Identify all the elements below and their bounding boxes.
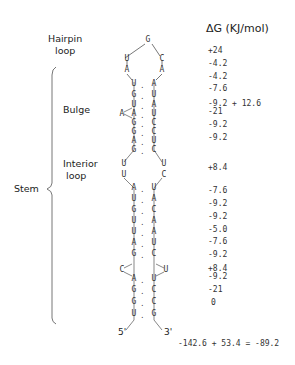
nucleotide: U [130,195,138,203]
nucleotide: C [150,146,158,154]
structure-lines [0,0,295,365]
nucleotide: A [150,101,158,109]
nucleotide: U [123,55,131,63]
nucleotide: A [150,80,158,88]
nucleotide: C [150,128,158,136]
stem-label: Stem [14,183,39,194]
dg-value: -9.2 [208,272,227,281]
nucleotide: G [130,128,138,136]
nucleotide: U [150,239,158,247]
dg-value: +24 [208,46,222,55]
nucleotide: G [130,206,138,214]
interior-label-2: loop [66,170,86,181]
hairpin-label-2: loop [55,45,75,56]
nucleotide: U [130,228,138,236]
nucleotide: U [150,137,158,145]
nucleotide: A [150,228,158,236]
nucleotide: U [150,184,158,192]
nucleotide: A [130,137,138,145]
nucleotide: U [150,91,158,99]
nucleotide: G [130,91,138,99]
dg-value: -9.2 [208,133,227,142]
dg-value: -4.2 [208,72,227,81]
nucleotide: U [150,275,158,283]
dg-value: -4.2 [208,59,227,68]
nucleotide: A [150,217,158,225]
dg-value: -7.6 [208,84,227,93]
nucleotide: A [150,195,158,203]
loop-nucleotide: U [120,171,128,179]
five-prime-end: 5' [118,327,126,338]
nucleotide: G [150,310,158,318]
loop-nucleotide: U [160,160,168,168]
nucleotide: A [130,275,138,283]
dg-value: 0 [211,298,216,307]
bulge-nucleotide: U [162,266,170,274]
nucleotide: C [150,250,158,258]
three-prime-end: 3' [164,327,172,338]
dg-value: -21 [208,285,222,294]
loop-nucleotide: U [120,160,128,168]
nucleotide: G [130,146,138,154]
dg-value: -21 [208,107,222,116]
dg-total: -142.6 + 53.4 = -89.2 [178,339,279,348]
dg-value: -5.0 [208,225,227,234]
loop-nucleotide: C [160,171,168,179]
nucleotide: C [158,55,166,63]
dg-value: -9.2 [208,212,227,221]
dg-value: -7.6 [208,237,227,246]
nucleotide: G [130,286,138,294]
nucleotide: A [130,110,138,118]
nucleotide: G [144,36,152,44]
hairpin-label: Hairpin [48,33,82,44]
nucleotide: G [130,298,138,306]
dg-value: +8.4 [208,163,227,172]
dg-value: -7.6 [208,186,227,195]
dg-value: -9.2 [208,199,227,208]
nucleotide: U [150,110,158,118]
nucleotide: A [130,239,138,247]
nucleotide: C [150,286,158,294]
bulge-label: Bulge [63,104,90,115]
interior-label: Interior [63,158,98,169]
nucleotide: U [130,310,138,318]
nucleotide: C [150,298,158,306]
nucleotide: U [130,217,138,225]
nucleotide: U [130,101,138,109]
nucleotide: U [130,80,138,88]
nucleotide: A [123,66,131,74]
bulge-nucleotide: A [118,110,126,118]
nucleotide: C [150,119,158,127]
nucleotide: G [130,119,138,127]
dg-value: -9.2 [208,250,227,259]
dg-value: -9.2 [208,120,227,129]
nucleotide: A [130,184,138,192]
nucleotide: A [158,66,166,74]
nucleotide: G [130,250,138,258]
bulge-nucleotide: C [118,266,126,274]
nucleotide: C [150,206,158,214]
dg-header: ΔG (KJ/mol) [206,23,269,34]
